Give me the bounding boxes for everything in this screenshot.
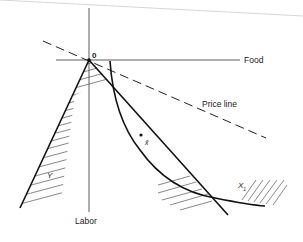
set-y-hatching [5,56,115,208]
food-axis-label: Food [244,56,263,65]
page-edge [0,0,303,16]
lower-region-hatching [158,176,212,210]
price-line [43,41,266,138]
set-x1-subscript: 1 [243,186,246,192]
set-y-label: Y [47,172,52,180]
set-y-boundary [20,60,89,208]
set-x1-label: X1 [238,182,246,192]
origin-label: 0 [92,52,96,60]
origin-point [87,58,91,62]
technology-ray [89,60,228,215]
labor-axis-label: Labor [75,217,97,226]
x-bar-label: x̄ [145,139,149,146]
set-x1-hatching [242,180,287,205]
production-diagram [0,0,303,242]
x-bar-point [139,133,142,136]
price-line-label: Price line [202,100,237,109]
